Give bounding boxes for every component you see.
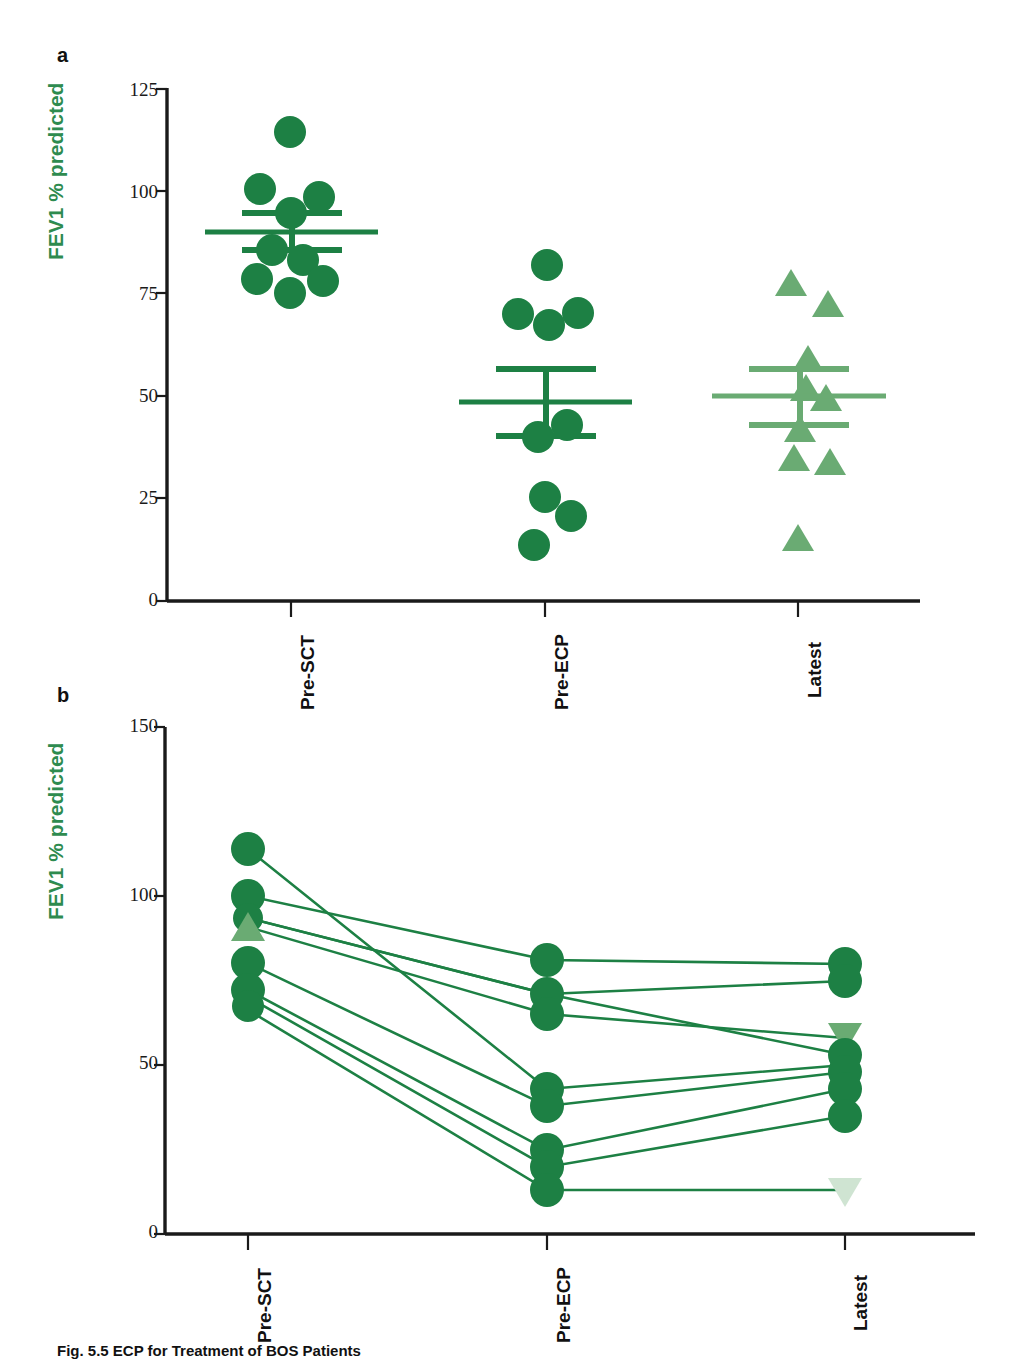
panel-b: b FEV1 % predicted 150 100 50 0 Pre-SCT … — [0, 0, 1017, 1359]
figure-caption: Fig. 5.5 ECP for Treatment of BOS Patien… — [57, 1342, 361, 1359]
data-point — [231, 832, 265, 866]
data-point — [828, 964, 862, 998]
data-point — [828, 1178, 862, 1207]
data-point — [530, 1089, 564, 1123]
panel-b-markers-pre-sct — [231, 832, 265, 1022]
data-point — [530, 997, 564, 1031]
panel-b-x-ticks — [248, 1234, 845, 1250]
figure-container: a FEV1 % predicted 125 100 75 50 25 0 Pr… — [0, 0, 1017, 1359]
data-point — [828, 1099, 862, 1133]
data-point — [530, 943, 564, 977]
panel-b-markers-pre-ecp — [530, 943, 564, 1207]
panel-b-markers-latest — [828, 947, 862, 1207]
data-point — [530, 1173, 564, 1207]
panel-b-plot — [0, 0, 1017, 1359]
data-point — [232, 990, 264, 1022]
